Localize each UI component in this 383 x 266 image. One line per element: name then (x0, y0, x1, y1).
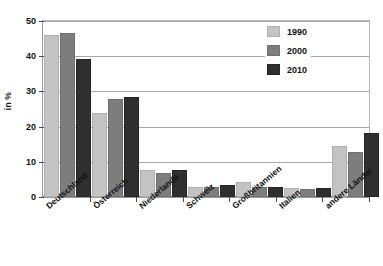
y-tick-0 (39, 197, 44, 198)
x-tick (369, 197, 370, 202)
legend-swatch-icon (267, 26, 280, 37)
bar (364, 133, 379, 197)
bar (220, 185, 235, 197)
y-tick-label: 0 (31, 192, 36, 202)
plot-area: 01020304050 (42, 20, 370, 198)
legend-swatch-icon (267, 45, 280, 56)
x-tick (136, 197, 137, 202)
bar (92, 113, 107, 197)
y-tick-label: 20 (26, 122, 36, 132)
x-tick (90, 197, 91, 202)
legend-swatch-icon (267, 64, 280, 75)
bar (60, 33, 75, 197)
legend-label: 1990 (287, 27, 307, 37)
y-tick-label: 40 (26, 51, 36, 61)
legend-label: 2010 (287, 65, 307, 75)
y-tick-label: 30 (26, 86, 36, 96)
bar (300, 189, 315, 197)
y-tick-label: 50 (26, 16, 36, 26)
legend-item: 2000 (267, 45, 307, 56)
x-tick (322, 197, 323, 202)
y-axis-title: in % (3, 77, 13, 125)
bar-chart: in % 01020304050 DeutschlandÖsterreichNi… (0, 0, 383, 266)
bar (316, 188, 331, 197)
chart-legend: 199020002010 (265, 24, 311, 77)
x-tick (229, 197, 230, 202)
bar-group (91, 21, 139, 197)
bar (44, 35, 59, 197)
y-tick-label: 10 (26, 157, 36, 167)
bar-group (187, 21, 235, 197)
x-tick (183, 197, 184, 202)
bar-groups (43, 21, 369, 197)
legend-item: 2010 (267, 64, 307, 75)
bar (268, 187, 283, 197)
x-tick (276, 197, 277, 202)
bar-group (139, 21, 187, 197)
legend-item: 1990 (267, 26, 307, 37)
legend-label: 2000 (287, 46, 307, 56)
